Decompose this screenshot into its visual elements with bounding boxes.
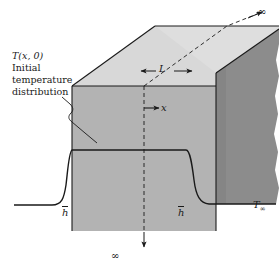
initial-label: Initial	[12, 62, 40, 73]
convection-coefficient-right: h	[178, 207, 184, 219]
infinity-top-label: ∞	[258, 6, 266, 18]
x-axis-label: x	[161, 102, 167, 114]
slab-body	[72, 26, 279, 231]
temperature-label: temperature	[12, 74, 72, 85]
convection-coefficient-left: h	[62, 207, 68, 219]
slab-right-face-shadow	[216, 66, 226, 204]
thickness-dimension-label: L	[159, 63, 166, 75]
h-bar-left-glyph: h	[62, 207, 68, 219]
ambient-temperature-subscript: ∞	[260, 205, 266, 213]
ambient-temperature-symbol: T	[253, 199, 260, 210]
ambient-temperature-label: T∞	[253, 199, 266, 213]
h-bar-right-glyph: h	[178, 207, 184, 219]
initial-temperature-function-label: T(x, 0)	[12, 50, 43, 61]
heat-transfer-diagram: T(x, 0) Initial temperature distribution…	[0, 0, 279, 268]
distribution-label: distribution	[12, 86, 68, 97]
diagram-canvas	[0, 0, 279, 268]
infinity-bottom-label: ∞	[111, 250, 119, 262]
